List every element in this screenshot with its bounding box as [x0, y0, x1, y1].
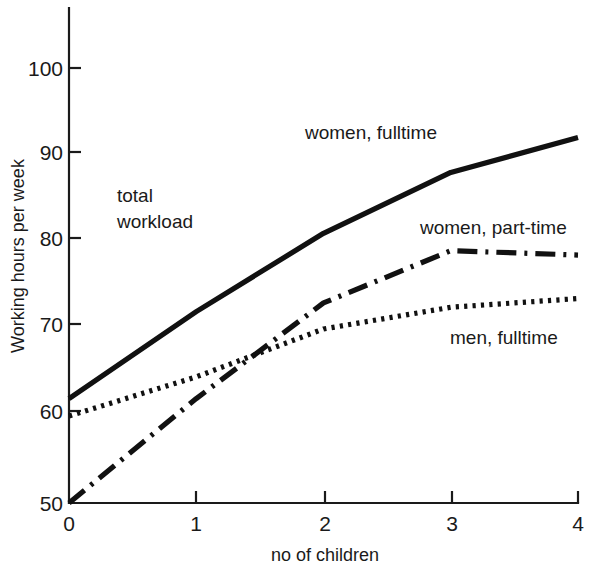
y-tick-label-50: 50: [40, 492, 63, 515]
series-line-women-part-time: [69, 251, 578, 503]
x-tick-label-3: 3: [446, 512, 458, 535]
series-label-women-fulltime: women, fulltime: [304, 122, 437, 143]
x-tick-label-4: 4: [572, 512, 584, 535]
y-tick-label-90: 90: [40, 141, 63, 164]
y-tick-label-70: 70: [40, 313, 63, 336]
series-line-women-fulltime: [69, 138, 578, 399]
x-tick-label-0: 0: [63, 512, 75, 535]
annotation-total-workload-line2: workload: [116, 211, 193, 232]
y-tick-label-80: 80: [40, 227, 63, 250]
annotation-total-workload-line1: total: [117, 185, 153, 206]
series-label-men-fulltime: men, fulltime: [450, 327, 558, 348]
series-label-women-part-time: women, part-time: [419, 217, 567, 238]
x-axis-title: no of children: [271, 545, 379, 565]
y-tick-label-60: 60: [40, 400, 63, 423]
chart-container: 100 90 80 70 60 50 0 1 2 3 4 no of child…: [0, 0, 596, 568]
y-tick-label-100: 100: [28, 57, 63, 80]
series-line-men-fulltime: [69, 299, 578, 416]
x-tick-label-2: 2: [319, 512, 331, 535]
y-axis-title: Working hours per week: [8, 158, 28, 353]
line-chart: 100 90 80 70 60 50 0 1 2 3 4 no of child…: [0, 0, 596, 568]
x-tick-label-1: 1: [190, 512, 202, 535]
